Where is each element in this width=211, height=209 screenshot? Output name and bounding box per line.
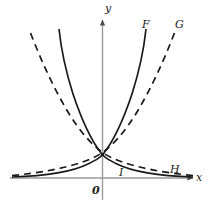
curve-G bbox=[12, 29, 176, 176]
plot-canvas bbox=[0, 0, 211, 209]
origin-label: 0 bbox=[92, 185, 100, 196]
curve-label-G: G bbox=[175, 19, 184, 30]
y-axis-label: y bbox=[105, 3, 111, 14]
x-axis-label: x bbox=[196, 172, 202, 183]
curve-F bbox=[12, 29, 146, 177]
curve-H bbox=[29, 29, 193, 176]
common-intersection-point bbox=[101, 153, 104, 156]
curve-label-F: F bbox=[142, 19, 150, 30]
curve-label-I: I bbox=[119, 167, 123, 178]
curve-label-H: H bbox=[170, 164, 180, 175]
curve-I bbox=[59, 29, 193, 177]
exponential-curves-figure: F G H I x y 0 bbox=[0, 0, 211, 209]
